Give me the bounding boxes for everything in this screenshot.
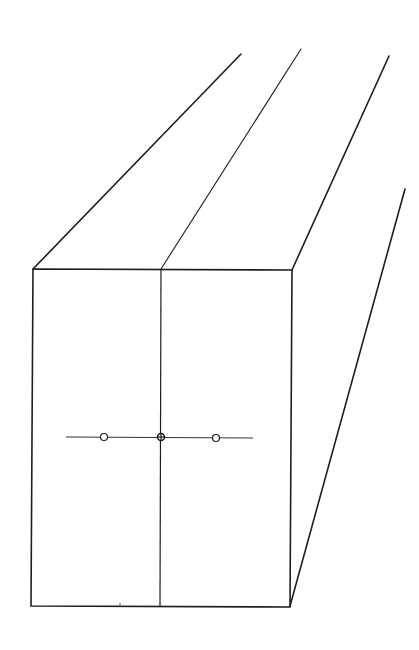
perspective-box-diagram: [0, 0, 419, 650]
left-point-circle-icon: [101, 434, 108, 441]
background: [0, 0, 419, 650]
right-point-circle-icon: [213, 435, 220, 442]
diagram-canvas: [0, 0, 419, 650]
